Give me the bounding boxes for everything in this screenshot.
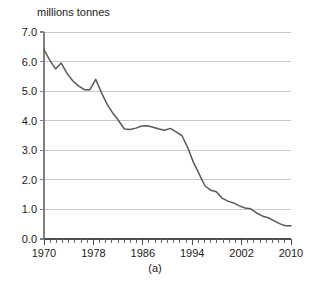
y-tick-label: 1.0 [22, 203, 37, 215]
x-tick-label: 1994 [180, 247, 204, 259]
figure-caption: (a) [0, 262, 310, 274]
x-tick-label: 1978 [81, 247, 105, 259]
y-tick-label: 5.0 [22, 85, 37, 97]
y-tick-label: 7.0 [22, 26, 37, 38]
y-tick-label: 6.0 [22, 56, 37, 68]
figure-container: millions tonnes 0.01.02.03.04.05.06.07.0… [0, 0, 310, 287]
x-tick-label: 2002 [229, 247, 253, 259]
y-tick-label: 0.0 [22, 233, 37, 245]
data-line [44, 50, 291, 226]
y-tick-label: 3.0 [22, 144, 37, 156]
x-tick-label: 1970 [32, 247, 56, 259]
x-tick-label: 1986 [131, 247, 155, 259]
y-tick-label: 2.0 [22, 174, 37, 186]
line-chart: 0.01.02.03.04.05.06.07.01970197819861994… [0, 0, 310, 287]
plot-area: 0.01.02.03.04.05.06.07.01970197819861994… [0, 0, 310, 287]
y-tick-label: 4.0 [22, 115, 37, 127]
x-tick-label: 2010 [279, 247, 303, 259]
